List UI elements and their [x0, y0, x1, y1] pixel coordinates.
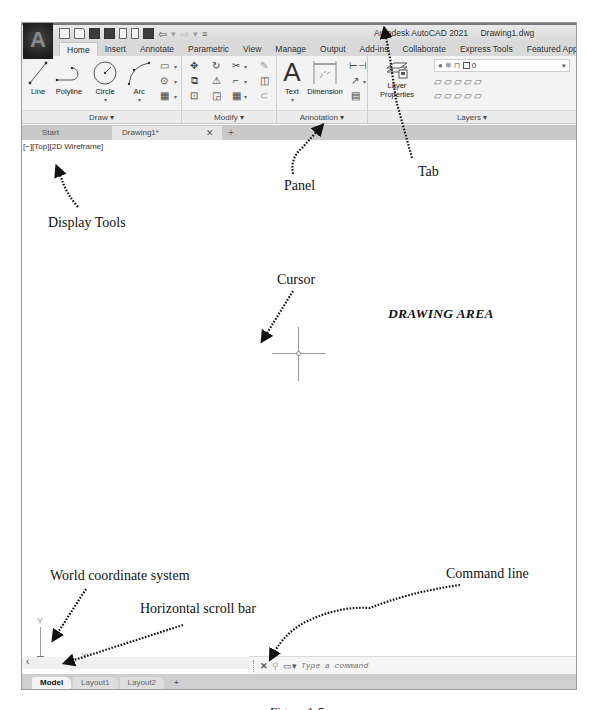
undo-dropdown-icon[interactable]: ▾ [171, 27, 176, 41]
mirror-icon[interactable]: ⚠ [210, 75, 222, 87]
trim-dropdown-icon[interactable]: ▾ [242, 60, 248, 72]
tab-express-tools[interactable]: Express Tools [453, 42, 520, 56]
horizontal-scrollbar[interactable]: ‹ [22, 657, 252, 669]
tab-output[interactable]: Output [313, 42, 353, 56]
arc-tool[interactable]: Arc ▾ [124, 60, 154, 103]
tab-view[interactable]: View [236, 42, 268, 56]
circle-dropdown-icon[interactable]: ▾ [88, 96, 122, 103]
application-menu-button[interactable]: A [23, 23, 53, 59]
recent-commands-icon[interactable]: ▭▾ [283, 661, 297, 671]
publish-icon[interactable] [131, 28, 139, 39]
layers-panel-title[interactable]: Layers ▾ [368, 110, 576, 123]
leader-icon[interactable]: ↗ [349, 75, 361, 87]
table-icon[interactable]: ▤ [349, 90, 361, 102]
unlock-icon: ⊓ [454, 61, 460, 70]
fillet-dropdown-icon[interactable]: ▾ [242, 75, 248, 87]
layer-freeze-icon[interactable]: ⏥ [454, 76, 464, 87]
tab-collaborate[interactable]: Collaborate [395, 42, 452, 56]
layout-tab-model[interactable]: Model [32, 677, 71, 689]
autocad-window: ⇦▾ ⇨▾ ≡ Autodesk AutoCAD 2021 Drawing1.d… [21, 22, 577, 690]
text-tool[interactable]: A Text ▾ [281, 58, 303, 103]
layer-off-icon[interactable]: ⏥ [434, 76, 444, 87]
layout-tab-layout1[interactable]: Layout1 [73, 677, 117, 689]
file-title: Drawing1.dwg [480, 28, 534, 38]
offset-icon[interactable]: ⊂ [258, 90, 270, 102]
ellipse-dropdown-icon[interactable]: ▾ [172, 75, 178, 87]
tab-featured-apps[interactable]: Featured Apps [520, 42, 577, 56]
customize-icon[interactable]: ≡ [202, 27, 207, 41]
polyline-tool[interactable]: Polyline [50, 60, 88, 96]
plot-preview-icon[interactable] [119, 28, 127, 39]
layer-isolate-icon[interactable]: ⏥ [444, 76, 454, 87]
line-icon [27, 60, 49, 86]
layer-properties-icon [384, 58, 410, 80]
customize-wrench-icon[interactable]: ⚲ [272, 661, 279, 671]
command-line-grip[interactable] [253, 660, 256, 672]
layer-match-icon[interactable]: ⏥ [474, 90, 484, 101]
hatch-dropdown-icon[interactable]: ▾ [172, 90, 178, 102]
annotation-panel-title[interactable]: Annotation ▾ [277, 110, 367, 123]
trim-icon[interactable]: ✂ [230, 60, 242, 72]
dimension-tool[interactable]: Dimension [304, 60, 346, 96]
layout-tab-layout2[interactable]: Layout2 [120, 677, 164, 689]
viewport-controls[interactable]: [−][Top][2D Wireframe] [23, 142, 103, 151]
tab-annotate[interactable]: Annotate [133, 42, 181, 56]
layer-unisolate-icon[interactable]: ⏥ [444, 90, 454, 101]
modify-panel: ✥ ↻ ✂ ▾ ✎ ⧉ ⚠ ⌐ ▾ ◫ ⊡ ◲ ▦ ▾ ⊂ Modify ▾ [182, 56, 277, 123]
rotate-icon[interactable]: ↻ [210, 60, 222, 72]
layer-dropdown[interactable]: ● ✺ ⊓ 0 ▾ [434, 59, 570, 72]
modify-panel-title[interactable]: Modify ▾ [182, 110, 276, 123]
tab-insert[interactable]: Insert [98, 42, 133, 56]
rectangle-icon[interactable]: ▭ [158, 60, 170, 72]
scroll-left-arrow-icon[interactable]: ‹ [26, 656, 29, 667]
array-dropdown-icon[interactable]: ▾ [242, 90, 248, 102]
pickbox [296, 351, 301, 356]
redo-icon[interactable]: ⇨ [180, 27, 189, 41]
rectangle-dropdown-icon[interactable]: ▾ [172, 60, 178, 72]
tab-manage[interactable]: Manage [268, 42, 313, 56]
hatch-icon[interactable]: ▦ [158, 90, 170, 102]
command-input[interactable] [301, 661, 531, 670]
layer-thaw-icon[interactable]: ⏥ [454, 90, 464, 101]
circle-tool[interactable]: Circle ▾ [88, 60, 122, 103]
layer-lock-icon[interactable]: ⏥ [464, 76, 474, 87]
undo-icon[interactable]: ⇦ [158, 27, 167, 41]
copy-icon[interactable]: ⧉ [188, 75, 200, 87]
draw-panel: Line Polyline Circle ▾ Arc ▾ ▭ ▾ ⊙ ▾ ▦ ▾… [22, 56, 182, 123]
print-icon[interactable] [143, 28, 154, 39]
redo-dropdown-icon[interactable]: ▾ [193, 27, 198, 41]
array-icon[interactable]: ▦ [230, 90, 242, 102]
save-as-icon[interactable] [104, 28, 115, 39]
arc-label: Arc [124, 87, 154, 96]
text-dropdown-icon[interactable]: ▾ [281, 96, 303, 103]
line-tool[interactable]: Line [26, 60, 50, 96]
open-icon[interactable] [74, 28, 85, 39]
save-icon[interactable] [89, 28, 100, 39]
layer-on-icon[interactable]: ⏥ [434, 90, 444, 101]
tab-parametric[interactable]: Parametric [181, 42, 236, 56]
erase-icon[interactable]: ✎ [258, 60, 270, 72]
stretch-icon[interactable]: ⊡ [188, 90, 200, 102]
ellipse-icon[interactable]: ⊙ [158, 75, 170, 87]
linear-dim-icon[interactable]: ⊢⊣ [349, 60, 361, 72]
layer-unlock-icon[interactable]: ⏥ [464, 90, 474, 101]
move-icon[interactable]: ✥ [188, 60, 200, 72]
file-tab-drawing1[interactable]: Drawing1* ✕ [112, 126, 222, 140]
close-command-line-icon[interactable]: ✕ [260, 661, 268, 671]
scale-icon[interactable]: ◲ [210, 90, 222, 102]
layer-make-current-icon[interactable]: ⏥ [474, 76, 484, 87]
new-icon[interactable] [59, 28, 70, 39]
arc-dropdown-icon[interactable]: ▾ [124, 96, 154, 103]
tab-add-ins[interactable]: Add-ins [353, 42, 396, 56]
close-tab-icon[interactable]: ✕ [206, 126, 214, 140]
new-tab-button[interactable]: + [222, 126, 240, 140]
leader-dropdown-icon[interactable]: ▾ [361, 75, 367, 87]
draw-panel-title[interactable]: Draw ▾ [22, 110, 181, 123]
file-tab-start[interactable]: Start [22, 126, 112, 140]
arc-icon [125, 60, 153, 86]
tab-home[interactable]: Home [59, 42, 98, 56]
explode-icon[interactable]: ◫ [258, 75, 270, 87]
fillet-icon[interactable]: ⌐ [230, 75, 242, 87]
layer-properties-tool[interactable]: Layer Properties [372, 58, 422, 99]
add-layout-button[interactable]: + [166, 677, 187, 689]
